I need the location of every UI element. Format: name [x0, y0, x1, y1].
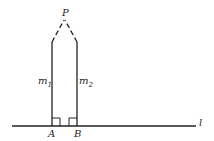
label-p: P — [61, 7, 69, 18]
label-a: A — [47, 128, 55, 139]
label-m2-base: m — [79, 75, 88, 86]
label-m1: m1 — [38, 75, 52, 89]
label-l: l — [199, 117, 202, 128]
diagram-canvas: P l A B m1 m2 — [0, 0, 214, 141]
dashed-m1-to-p — [52, 20, 64, 42]
right-angle-mark-a — [52, 118, 60, 126]
dashed-m2-to-p — [65, 20, 77, 42]
label-m2: m2 — [79, 75, 93, 89]
label-m2-subscript: 2 — [87, 81, 93, 89]
label-m1-subscript: 1 — [47, 81, 51, 89]
label-m1-base: m — [38, 75, 47, 86]
label-b: B — [73, 128, 81, 139]
right-angle-mark-b — [69, 118, 77, 126]
